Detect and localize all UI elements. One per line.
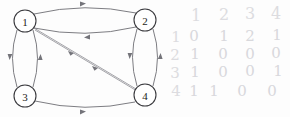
matrix-col-header-1: 1 <box>188 8 204 24</box>
node-1-label: 1 <box>22 16 28 28</box>
arrow-2-to-1 <box>84 35 90 40</box>
edge-1-to-4-b <box>35 30 137 91</box>
node-2[interactable]: 2 <box>134 9 156 31</box>
matrix-cell-r2c2: 0 <box>215 47 231 62</box>
arrow-1-to-3 <box>8 54 13 60</box>
matrix-cell-r4c4: 0 <box>264 84 280 99</box>
matrix-col-header-3: 3 <box>242 6 258 22</box>
matrix-cell-r2c4: 0 <box>268 46 284 61</box>
node-2-label: 2 <box>142 15 148 27</box>
edge-3-to-1 <box>33 30 38 87</box>
matrix-cell-r4c3: 0 <box>234 84 250 99</box>
edge-3-to-4 <box>35 101 135 107</box>
matrix-col-header-4: 4 <box>268 6 284 22</box>
edge-4-to-2 <box>153 29 158 86</box>
arrow-1-to-2 <box>80 2 86 7</box>
matrix-cell-r3c2: 0 <box>215 65 231 80</box>
node-4-label: 4 <box>142 90 148 102</box>
matrix-row-label-1: 1 <box>168 30 184 45</box>
figure-canvas: 1 2 3 4 1 2 3 4 1 2 3 4 0 1 2 1 1 0 <box>0 0 290 117</box>
edge-1-to-2 <box>34 8 136 14</box>
arrow-4-to-2 <box>158 53 163 59</box>
matrix-cell-r1c1: 0 <box>186 29 202 44</box>
handwritten-adjacency-matrix: 1 2 3 4 1 2 3 4 0 1 2 1 1 0 0 0 1 0 0 1 … <box>172 0 290 117</box>
matrix-cell-r2c1: 1 <box>187 47 203 62</box>
node-1[interactable]: 1 <box>14 10 36 32</box>
matrix-cell-r1c4: 1 <box>269 28 285 43</box>
node-4[interactable]: 4 <box>134 84 156 106</box>
matrix-col-header-2: 2 <box>216 7 232 23</box>
matrix-cell-r2c3: 0 <box>242 47 258 62</box>
arrow-2-to-4 <box>128 53 133 59</box>
edge-1-to-3 <box>13 30 18 87</box>
matrix-cell-r3c4: 1 <box>270 64 286 79</box>
matrix-cell-r4c1: 1 <box>186 84 202 99</box>
matrix-cell-r4c2: 1 <box>206 84 222 99</box>
matrix-cell-r1c3: 2 <box>242 29 258 44</box>
arrow-3-to-4 <box>80 110 86 115</box>
node-3-label: 3 <box>22 91 28 103</box>
edge-2-to-1 <box>34 27 136 33</box>
arrow-3-to-1 <box>38 54 43 60</box>
edge-2-to-4 <box>133 29 138 86</box>
matrix-cell-r1c2: 1 <box>216 29 232 44</box>
node-3[interactable]: 3 <box>14 85 36 107</box>
matrix-row-label-4: 4 <box>168 84 184 99</box>
matrix-cell-r3c3: 0 <box>242 64 258 79</box>
matrix-row-label-3: 3 <box>167 66 183 81</box>
directed-graph: 1 2 3 4 <box>0 0 175 117</box>
matrix-cell-r3c1: 1 <box>187 65 203 80</box>
matrix-row-label-2: 2 <box>167 48 183 63</box>
